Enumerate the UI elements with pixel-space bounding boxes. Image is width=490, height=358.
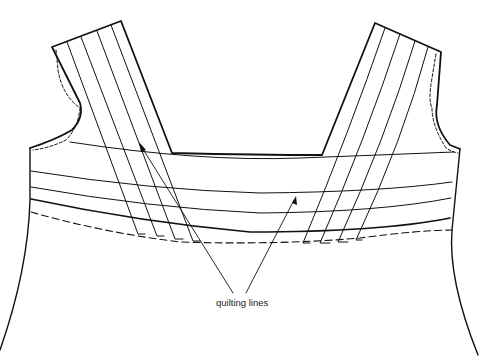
quilting-line-d <box>67 42 145 234</box>
quilting-line-d <box>111 25 200 241</box>
bodice-outline <box>30 21 460 155</box>
quilting-line-h <box>31 187 451 213</box>
annotation-arrow-right <box>246 200 294 293</box>
quilting-line-d <box>97 31 183 239</box>
left-side-seam <box>0 148 30 350</box>
left-armhole-stitch <box>33 50 80 150</box>
quilting-line-h-bold <box>31 199 450 232</box>
arrowhead-left-icon <box>139 142 146 152</box>
quilting-line-d <box>81 37 164 236</box>
right-side-seam <box>452 149 478 355</box>
arrowhead-right-icon <box>292 196 297 205</box>
quilting-line-d <box>356 47 428 240</box>
annotation-arrow-left <box>141 146 233 293</box>
quilting-lines-label: quilting lines <box>216 297 268 308</box>
quilting-line-d <box>320 34 400 243</box>
waist-stitch <box>31 212 454 243</box>
quilting-line-h <box>31 171 452 193</box>
quilting-line-d <box>338 41 415 242</box>
